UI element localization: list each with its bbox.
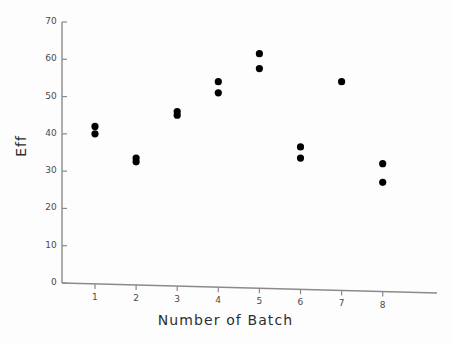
data-point [379, 160, 386, 167]
x-tick-label: 8 [375, 300, 391, 310]
data-point [297, 143, 304, 150]
y-tick-label: 70 [35, 16, 57, 26]
plot-canvas [0, 0, 451, 345]
y-tick-label: 20 [35, 202, 57, 212]
x-tick-label: 3 [169, 294, 185, 304]
data-point [379, 179, 386, 186]
data-point [256, 65, 263, 72]
data-point [338, 78, 345, 85]
data-point [215, 89, 222, 96]
y-tick-label: 50 [35, 91, 57, 101]
data-point [174, 112, 181, 119]
x-axis-label: Number of Batch [0, 312, 451, 328]
data-point [256, 50, 263, 57]
x-tick-label: 6 [293, 297, 309, 307]
x-tick-label: 7 [334, 298, 350, 308]
y-tick-label: 40 [35, 128, 57, 138]
axis-ticks [62, 22, 383, 297]
data-point [215, 78, 222, 85]
x-tick-label: 2 [128, 293, 144, 303]
x-tick-label: 1 [87, 292, 103, 302]
y-axis-label: Eff [13, 116, 29, 176]
x-tick-label: 4 [210, 295, 226, 305]
data-points [91, 50, 386, 186]
y-tick-label: 0 [35, 277, 57, 287]
data-point [297, 154, 304, 161]
axis-lines [62, 22, 437, 293]
y-tick-label: 60 [35, 53, 57, 63]
scatter-plot-figure: 010203040506070 12345678 Eff Number of B… [0, 0, 451, 345]
data-point [91, 123, 98, 130]
y-tick-label: 30 [35, 165, 57, 175]
x-tick-label: 5 [251, 296, 267, 306]
data-point [91, 130, 98, 137]
data-point [133, 158, 140, 165]
y-tick-label: 10 [35, 240, 57, 250]
